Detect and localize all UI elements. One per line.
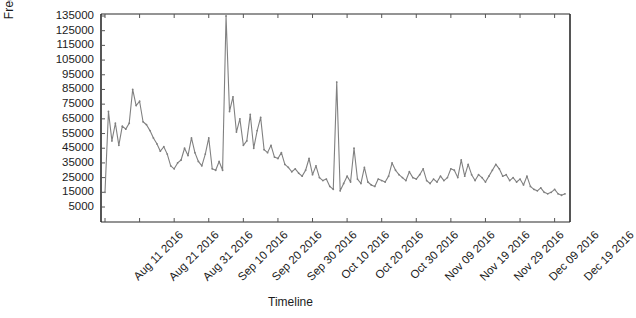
data-markers [104, 15, 566, 196]
x-axis-ticks [105, 14, 555, 222]
